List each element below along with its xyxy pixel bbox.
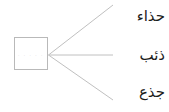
branch-label-1: ذئب: [109, 45, 165, 65]
branch-line-down: [49, 55, 114, 100]
branch-label-0: حذاء: [109, 6, 165, 26]
source-box: . . . . .: [14, 37, 48, 70]
branch-label-2: جذع: [109, 82, 165, 102]
source-box-content: . . . . .: [15, 51, 47, 56]
branch-line-up: [49, 5, 114, 55]
diagram-canvas: . . . . . حذاء ذئب جذع: [0, 0, 169, 112]
